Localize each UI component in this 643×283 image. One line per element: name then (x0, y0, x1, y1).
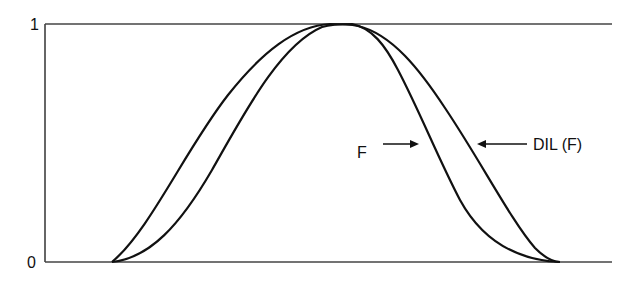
curve-dil-f (112, 24, 560, 262)
label-f: F (357, 145, 367, 161)
dilation-diagram: 1 0 F DIL (F) (0, 0, 643, 283)
curve-f (112, 24, 560, 262)
y-tick-0: 0 (27, 255, 36, 271)
y-tick-1: 1 (30, 17, 39, 33)
label-dil-f: DIL (F) (533, 137, 582, 153)
dil-f-arrowhead-icon (477, 140, 486, 148)
f-arrowhead-icon (410, 140, 419, 148)
